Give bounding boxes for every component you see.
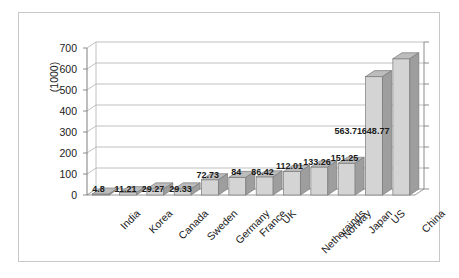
data-label: 86.42 (251, 167, 274, 177)
plot-area: (1000) 0100200300400500600700 4.811.2129… (19, 13, 441, 263)
data-label: 11.21 (115, 184, 137, 194)
data-label: 151.25 (331, 153, 359, 163)
y-axis-tick-label: 500 (47, 85, 77, 95)
data-label: 563.71 (335, 126, 363, 136)
data-label: 29.33 (169, 184, 192, 194)
y-axis-tick-label: 0 (47, 190, 77, 200)
chart-screenshot: (1000) 0100200300400500600700 4.811.2129… (0, 0, 459, 278)
chart-frame: (1000) 0100200300400500600700 4.811.2129… (18, 12, 440, 262)
data-label: 84 (231, 167, 241, 177)
data-label: 112.01 (276, 161, 303, 171)
data-label: 29.27 (142, 184, 165, 194)
y-axis-tick-label: 100 (47, 169, 77, 179)
y-axis-tick-label: 400 (47, 106, 77, 116)
data-label: 4.8 (92, 184, 105, 194)
y-axis-tick-label: 600 (47, 64, 77, 74)
data-label: 648.77 (362, 126, 390, 136)
y-axis-tick-label: 200 (47, 148, 77, 158)
data-label: 133.26 (303, 157, 331, 167)
data-label: 72.73 (197, 170, 220, 180)
y-axis-tick-label: 300 (47, 127, 77, 137)
y-axis-tick-label: 700 (47, 43, 77, 53)
